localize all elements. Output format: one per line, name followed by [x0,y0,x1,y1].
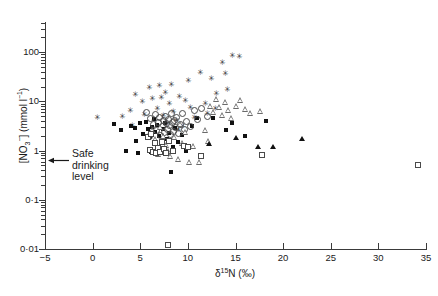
y-tick-minor [41,185,46,186]
data-point-open-triangle [160,133,166,139]
y-tick-minor [41,106,46,107]
y-tick-minor [41,165,46,166]
x-tick-label: −5 [30,252,60,263]
y-tick-minor [41,54,46,55]
x-tick-major [93,243,94,250]
y-tick-major [39,101,46,102]
data-point-open-triangle [171,134,177,140]
y-tick-minor [41,60,46,61]
x-tick-label: 30 [363,252,393,263]
data-point-filled-square [169,170,173,174]
x-tick-major [140,243,141,250]
data-point-star: ✳ [166,101,172,107]
y-tick-major [39,151,46,152]
data-point-star: ✳ [127,108,133,114]
x-tick-major [188,243,189,250]
data-point-star: ✳ [162,90,168,96]
data-point-open-triangle [225,107,231,113]
y-tick-minor [41,155,46,156]
y-tick-minor [41,153,46,154]
data-point-open-square [159,139,165,145]
y-tick-minor [41,29,46,30]
data-point-filled-square [133,126,137,130]
y-tick-minor [41,67,46,68]
x-axis-title-text: δ15N (‰) [215,268,255,279]
x-tick-major [236,243,237,250]
y-tick-minor [41,72,46,73]
data-point-filled-square [119,128,123,132]
data-point-open-triangle [177,121,183,127]
data-point-open-triangle [175,156,181,162]
data-point-filled-square [134,139,138,143]
data-point-star: ✳ [197,70,203,76]
data-point-star: ✳ [236,54,242,60]
data-point-filled-square [112,122,116,126]
safe-drinking-level-annotation: Safe drinking level [72,148,134,183]
data-point-filled-square [243,134,247,138]
y-tick-minor [41,104,46,105]
y-tick-minor [41,226,46,227]
y-tick-minor [41,219,46,220]
safe-level-arrow-icon [48,156,70,165]
x-tick-label: 10 [173,252,203,263]
y-tick-minor [41,116,46,117]
data-point-open-triangle [186,159,192,165]
y-tick-minor [41,109,46,110]
y-tick-minor [41,87,46,88]
y-tick-minor [41,202,46,203]
data-point-open-triangle [202,127,208,133]
x-tick-major [45,243,46,250]
data-point-open-square [185,144,191,150]
data-point-open-square [166,138,172,144]
y-axis-title: [NO3−] (mmol l−1) [18,61,29,191]
data-point-star: ✳ [119,114,125,120]
y-tick-minor [41,176,46,177]
annotation-line-3: level [72,171,134,183]
data-point-open-square [170,148,176,154]
x-tick-label: 25 [316,252,346,263]
x-tick-major [283,243,284,250]
data-point-star: ✳ [224,87,230,93]
y-tick-minor [41,63,46,64]
x-tick-major [426,243,427,250]
y-tick-minor [41,112,46,113]
x-tick-label: 15 [221,252,251,263]
data-point-filled-square [224,128,228,132]
data-point-star: ✳ [222,71,228,77]
data-point-filled-square [138,121,142,125]
data-point-filled-square [264,119,268,123]
data-point-open-square [198,153,204,159]
data-point-open-triangle [219,112,225,118]
data-point-open-triangle [216,104,222,110]
data-point-open-triangle [222,99,228,105]
y-tick-minor [41,127,46,128]
data-point-open-triangle [237,97,243,103]
data-point-star: ✳ [219,60,225,66]
data-point-star: ✳ [94,115,100,121]
data-point-star: ✳ [132,92,138,98]
x-tick-major [331,243,332,250]
data-point-open-triangle [157,124,163,130]
data-point-open-triangle [233,103,239,109]
data-point-filled-triangle [299,136,305,141]
y-tick-minor [41,78,46,79]
data-point-open-square [415,162,421,168]
x-tick-label: 5 [125,252,155,263]
y-tick-minor [41,205,46,206]
x-tick-major [378,243,379,250]
data-point-filled-triangle [255,144,261,149]
data-point-star: ✳ [146,85,152,91]
data-point-open-triangle [228,115,234,121]
data-point-open-triangle [196,159,202,165]
data-point-star: ✳ [139,99,145,105]
data-point-open-square [148,131,154,137]
y-tick-minor [41,37,46,38]
x-axis-title: δ15N (‰) [175,268,295,279]
data-point-filled-square [124,149,128,153]
data-point-filled-square [211,116,215,120]
y-tick-minor [41,170,46,171]
x-tick-label: 20 [268,252,298,263]
y-tick-major [39,200,46,201]
y-tick-minor [41,162,46,163]
data-point-open-triangle [247,110,253,116]
